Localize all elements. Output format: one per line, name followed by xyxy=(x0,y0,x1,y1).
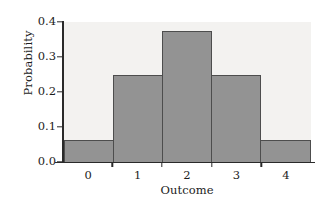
x-tick-label-4: 4 xyxy=(261,167,310,183)
y-tick-label-0: 0.0 xyxy=(26,156,56,168)
bar-outcome-2 xyxy=(162,31,212,162)
probability-bar-chart: Probability 0.0 0.1 0.2 0.3 0.4 xyxy=(0,0,326,203)
x-tick-label-3: 3 xyxy=(212,167,261,183)
y-axis-tick-labels: 0.0 0.1 0.2 0.3 0.4 xyxy=(26,0,56,203)
x-tick-label-0: 0 xyxy=(64,167,113,183)
bar-outcome-4 xyxy=(260,140,310,162)
bar-outcome-0 xyxy=(64,140,114,162)
bar-outcome-1 xyxy=(113,75,163,163)
x-tick-label-2: 2 xyxy=(162,167,211,183)
bar-series xyxy=(64,22,311,162)
plot-area xyxy=(64,22,311,162)
bar-outcome-3 xyxy=(211,75,261,163)
y-tick-label-2: 0.2 xyxy=(26,86,56,98)
y-tick-label-1: 0.1 xyxy=(26,121,56,133)
x-axis-title: Outcome xyxy=(64,183,311,197)
x-tick-label-1: 1 xyxy=(113,167,162,183)
y-tick-label-3: 0.3 xyxy=(26,51,56,63)
y-tick-label-4: 0.4 xyxy=(26,16,56,28)
x-axis-tick-labels: 0 1 2 3 4 xyxy=(64,167,311,183)
